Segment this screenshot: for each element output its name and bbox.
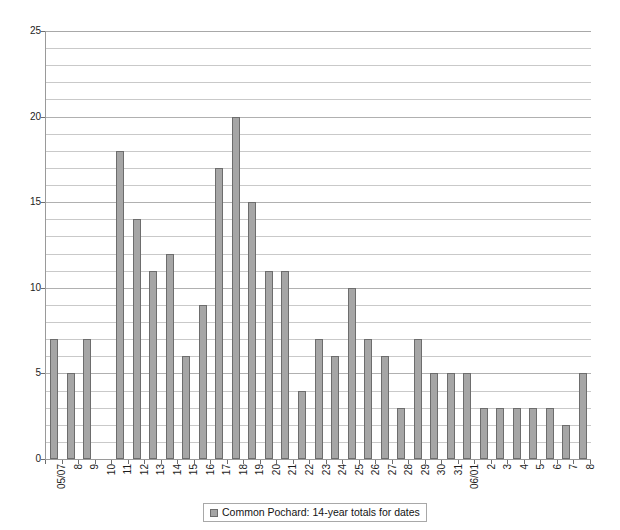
gridline <box>46 219 591 220</box>
bar <box>149 271 157 459</box>
x-tick-label: 8 <box>586 464 596 470</box>
x-tick-label: 29 <box>421 464 431 475</box>
x-tick-label: 8 <box>74 464 84 470</box>
bar <box>232 117 240 459</box>
gridline <box>46 185 591 186</box>
gridline <box>46 305 591 306</box>
plot-area <box>45 31 591 460</box>
bar <box>463 373 471 459</box>
bar <box>562 425 570 459</box>
bar <box>496 408 504 459</box>
gridline <box>46 236 591 237</box>
bar <box>397 408 405 459</box>
gridline <box>46 117 591 118</box>
gridline <box>46 48 591 49</box>
bar <box>116 151 124 459</box>
x-tick-label: 4 <box>520 464 530 470</box>
legend-label: Common Pochard: 14-year totals for dates <box>222 507 420 518</box>
y-tick-label: 25 <box>11 26 41 36</box>
y-tick-label: 0 <box>11 454 41 464</box>
gridline <box>46 168 591 169</box>
bar <box>348 288 356 459</box>
x-tick-label: 22 <box>305 464 315 475</box>
x-tick-label: 5 <box>536 464 546 470</box>
y-tick-label: 15 <box>11 197 41 207</box>
gridline <box>46 271 591 272</box>
chart-legend: Common Pochard: 14-year totals for dates <box>203 503 427 522</box>
x-tick-label: 20 <box>272 464 282 475</box>
bar <box>67 373 75 459</box>
bar <box>50 339 58 459</box>
bar <box>546 408 554 459</box>
x-tick-label: 11 <box>123 464 133 474</box>
gridline <box>46 151 591 152</box>
x-tick-label: 9 <box>90 464 100 470</box>
x-tick-label: 10 <box>107 464 117 475</box>
clipped-title-sliver: ··· <box>100 0 280 2</box>
gridline <box>46 202 591 203</box>
gridline <box>46 254 591 255</box>
gridline <box>46 82 591 83</box>
x-tick-label: 26 <box>371 464 381 475</box>
bar <box>447 373 455 459</box>
bar <box>281 271 289 459</box>
bar-chart: ··· 0510152025 05/0789101112131415161718… <box>0 0 620 530</box>
gridline <box>46 31 591 32</box>
x-tick-label: 27 <box>388 464 398 475</box>
y-tick-label: 5 <box>11 368 41 378</box>
bar <box>248 202 256 459</box>
x-tick-label: 28 <box>404 464 414 475</box>
bar <box>298 391 306 459</box>
x-tick-label: 13 <box>156 464 166 475</box>
x-tick-label: 16 <box>206 464 216 475</box>
bar <box>199 305 207 459</box>
bar <box>182 356 190 459</box>
x-tick-label: 21 <box>288 464 298 475</box>
bar <box>166 254 174 459</box>
bar <box>529 408 537 459</box>
y-axis: 0510152025 <box>0 31 41 459</box>
x-tick-label: 05/07 <box>57 464 67 489</box>
gridline <box>46 288 591 289</box>
x-tick-label: 2 <box>487 464 497 470</box>
x-tick-label: 24 <box>338 464 348 475</box>
x-tick-label: 7 <box>569 464 579 470</box>
bar <box>513 408 521 459</box>
bar <box>331 356 339 459</box>
bar <box>381 356 389 459</box>
x-tick-label: 14 <box>173 464 183 475</box>
gridline <box>46 322 591 323</box>
legend-swatch-icon <box>210 509 218 517</box>
bar <box>83 339 91 459</box>
x-tick-label: 30 <box>437 464 447 475</box>
y-tick-label: 10 <box>11 283 41 293</box>
bar <box>265 271 273 459</box>
x-tick-label: 23 <box>322 464 332 475</box>
bar <box>579 373 587 459</box>
bar <box>480 408 488 459</box>
bar <box>430 373 438 459</box>
x-tick-label: 18 <box>239 464 249 475</box>
x-tick-label: 17 <box>222 464 232 475</box>
bar <box>133 219 141 459</box>
bar <box>364 339 372 459</box>
bar <box>414 339 422 459</box>
y-tick-label: 20 <box>11 112 41 122</box>
x-tick-label: 06/01 <box>470 464 480 489</box>
x-tick-label: 31 <box>454 464 464 475</box>
gridline <box>46 134 591 135</box>
x-axis-labels: 05/0789101112131415161718192021222324252… <box>45 464 591 500</box>
bar <box>215 168 223 459</box>
bar <box>315 339 323 459</box>
x-tick-label: 15 <box>189 464 199 475</box>
x-tick-label: 19 <box>255 464 265 475</box>
x-tick-label: 3 <box>503 464 513 470</box>
gridline <box>46 99 591 100</box>
x-tick-label: 12 <box>140 464 150 475</box>
gridline <box>46 65 591 66</box>
x-tick-label: 25 <box>355 464 365 475</box>
x-tick-label: 6 <box>553 464 563 470</box>
